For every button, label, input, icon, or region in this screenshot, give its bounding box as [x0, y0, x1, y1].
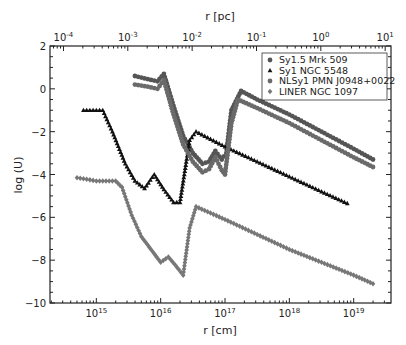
- x2-tick-label: 101: [377, 31, 394, 43]
- x-tick-label: 1017: [214, 307, 236, 319]
- legend-label: Sy1 NGC 5548: [279, 65, 348, 76]
- y-tick-label: −8: [31, 255, 46, 266]
- legend-item: LINER NGC 1097: [268, 86, 358, 97]
- chart: 20−2−4−6−8−101015101610171018101910-410-…: [0, 0, 406, 345]
- y-axis-label: log (U): [12, 157, 25, 194]
- legend-item: Sy1.5 Mrk 509: [268, 54, 348, 65]
- x2-tick-label: 10-4: [54, 31, 74, 43]
- y-tick-label: −4: [31, 170, 46, 181]
- y-tick-label: −10: [25, 298, 46, 309]
- plot-series: [75, 71, 376, 286]
- y-tick-label: 2: [40, 41, 46, 52]
- legend-item: Sy1 NGC 5548: [268, 65, 348, 76]
- x-tick-label: 1019: [343, 307, 365, 319]
- x2-tick-label: 10-1: [247, 31, 267, 43]
- x-tick-label: 1015: [85, 307, 107, 319]
- y-tick-label: 0: [40, 84, 46, 95]
- legend: Sy1.5 Mrk 509Sy1 NGC 5548NLSy1 PMN J0948…: [262, 53, 395, 100]
- y-tick-label: −6: [31, 212, 46, 223]
- x-axis-label: r [cm]: [203, 324, 236, 337]
- legend-label: Sy1.5 Mrk 509: [279, 54, 348, 65]
- x2-tick-label: 10-3: [118, 31, 138, 43]
- x-tick-label: 1018: [279, 307, 301, 319]
- y-tick-label: −2: [31, 127, 46, 138]
- legend-label: LINER NGC 1097: [279, 86, 358, 97]
- legend-item: NLSy1 PMN J0948+0022: [268, 75, 396, 86]
- legend-label: NLSy1 PMN J0948+0022: [279, 75, 395, 86]
- x2-tick-label: 10-2: [182, 31, 202, 43]
- x2-tick-label: 100: [312, 31, 329, 43]
- x2-axis-label: r [pc]: [205, 10, 235, 23]
- x-tick-label: 1016: [150, 307, 172, 319]
- series-3: [75, 175, 376, 287]
